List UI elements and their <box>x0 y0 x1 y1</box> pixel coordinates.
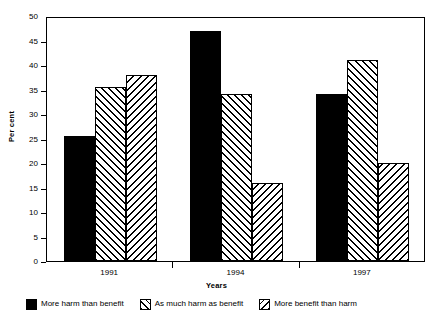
y-tick-label: 40 <box>18 62 38 70</box>
y-axis-title: Per cent <box>7 97 16 157</box>
bars-layer <box>47 18 424 261</box>
y-tick-label: 0 <box>18 258 38 266</box>
legend-item-2: As much harm as benefit <box>140 299 243 310</box>
y-axis-tick-labels: 05101520253035404550 <box>18 0 38 320</box>
bar-1997-series-2 <box>347 60 378 261</box>
x-category-label-1997: 1997 <box>353 268 371 277</box>
legend-item-label: As much harm as benefit <box>155 299 243 309</box>
x-axis-title: Years <box>0 281 433 290</box>
backward-hatch-swatch <box>259 299 270 310</box>
bar-chart: Per cent 05101520253035404550 1991199419… <box>0 0 433 320</box>
y-tick-label: 30 <box>18 111 38 119</box>
plot-area <box>46 17 425 262</box>
chart-legend: More harm than benefitAs much harm as be… <box>26 295 416 313</box>
y-tick-label: 5 <box>18 234 38 242</box>
bar-1997-series-3 <box>378 163 409 261</box>
bar-1994-series-3 <box>252 183 283 261</box>
y-tick-label: 10 <box>18 209 38 217</box>
bar-1991-series-1 <box>64 136 95 261</box>
x-tick-mark <box>299 262 300 268</box>
bar-1991-series-3 <box>126 75 157 261</box>
y-tick-mark <box>41 262 46 263</box>
bar-1994-series-2 <box>221 94 252 261</box>
x-category-label-1994: 1994 <box>227 268 245 277</box>
legend-item-1: More harm than benefit <box>26 299 124 310</box>
y-tick-label: 25 <box>18 136 38 144</box>
forward-hatch-swatch <box>140 299 151 310</box>
x-category-label-1991: 1991 <box>100 268 118 277</box>
y-tick-label: 45 <box>18 38 38 46</box>
bar-1991-series-2 <box>95 87 126 261</box>
legend-item-3: More benefit than harm <box>259 299 357 310</box>
y-tick-label: 20 <box>18 160 38 168</box>
y-tick-label: 35 <box>18 87 38 95</box>
bar-1997-series-1 <box>316 94 347 261</box>
legend-item-label: More benefit than harm <box>274 299 357 309</box>
y-tick-label: 15 <box>18 185 38 193</box>
bar-1994-series-1 <box>190 31 221 261</box>
legend-item-label: More harm than benefit <box>41 299 124 309</box>
solid-swatch <box>26 299 37 310</box>
x-tick-mark <box>172 262 173 268</box>
y-tick-label: 50 <box>18 13 38 21</box>
